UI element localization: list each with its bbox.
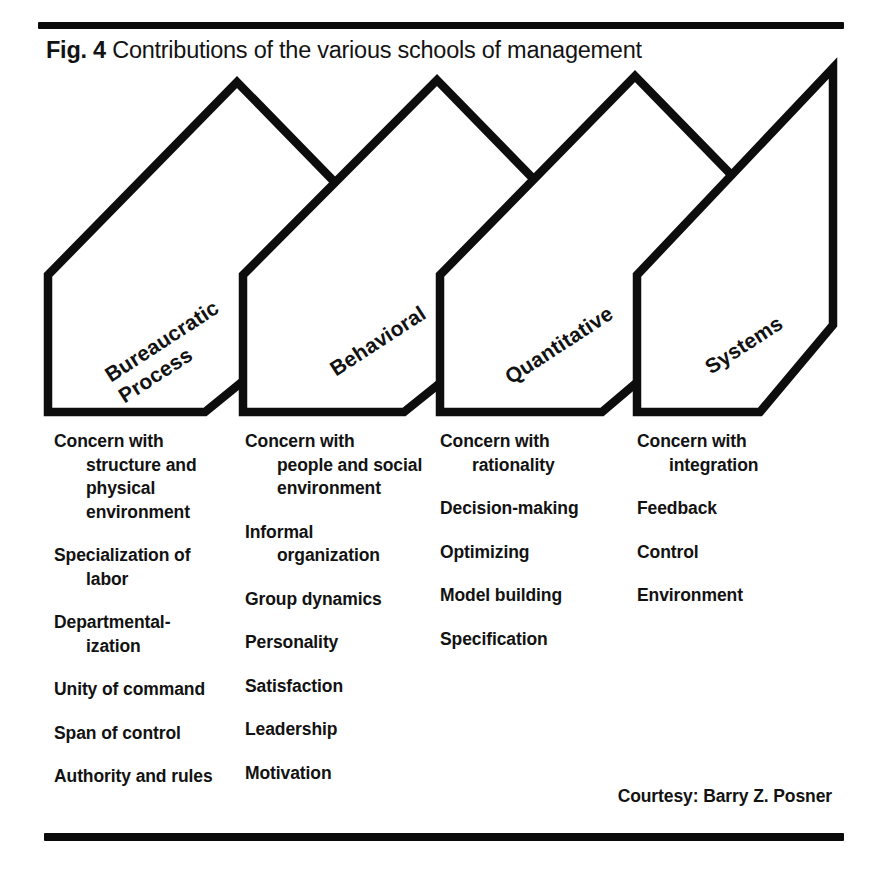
contribution-item: Optimizing bbox=[440, 541, 630, 565]
contribution-item: Motivation bbox=[245, 762, 430, 786]
contribution-item: Personality bbox=[245, 631, 430, 655]
contribution-cont: structure and physical environment bbox=[70, 454, 239, 525]
contribution-head: Satisfaction bbox=[245, 676, 343, 696]
contribution-item: Satisfaction bbox=[245, 675, 430, 699]
contribution-head: Personality bbox=[245, 632, 338, 652]
contribution-item: Model building bbox=[440, 584, 630, 608]
contribution-item: Concern withrationality bbox=[440, 430, 630, 477]
contribution-head: Leadership bbox=[245, 719, 337, 739]
contribution-item: Leadership bbox=[245, 718, 430, 742]
contribution-head: Unity of command bbox=[54, 679, 205, 699]
contribution-head: Environment bbox=[637, 585, 743, 605]
contribution-item: Group dynamics bbox=[245, 588, 430, 612]
contribution-item: Departmental-ization bbox=[54, 611, 239, 658]
contributions-columns: Concern withstructure and physical envir… bbox=[0, 430, 878, 820]
contribution-item: Concern withstructure and physical envir… bbox=[54, 430, 239, 524]
contribution-head: Motivation bbox=[245, 763, 332, 783]
contribution-item: Specialization oflabor bbox=[54, 544, 239, 591]
contribution-item: Feedback bbox=[637, 497, 832, 521]
contribution-head: Departmental- bbox=[54, 612, 170, 632]
contribution-item: Concern withintegration bbox=[637, 430, 832, 477]
contribution-item: Authority and rules bbox=[54, 765, 239, 789]
contribution-item: Control bbox=[637, 541, 832, 565]
contribution-head: Informal bbox=[245, 522, 313, 542]
contribution-item: Unity of command bbox=[54, 678, 239, 702]
bottom-rule-divider bbox=[44, 833, 844, 841]
contribution-head: Authority and rules bbox=[54, 766, 213, 786]
contribution-head: Concern with bbox=[440, 431, 550, 451]
chevron-shapes-svg bbox=[0, 0, 878, 440]
contribution-cont: integration bbox=[653, 454, 832, 478]
contribution-head: Feedback bbox=[637, 498, 717, 518]
contribution-cont: people and social environment bbox=[261, 454, 430, 501]
contribution-cont: rationality bbox=[456, 454, 630, 478]
contribution-item: Specification bbox=[440, 628, 630, 652]
contribution-cont: labor bbox=[70, 568, 239, 592]
contribution-item: Decision-making bbox=[440, 497, 630, 521]
contributions-column-behavioral: Concern withpeople and social environmen… bbox=[245, 430, 430, 805]
contribution-cont: organization bbox=[261, 544, 430, 568]
contribution-head: Model building bbox=[440, 585, 562, 605]
contribution-head: Concern with bbox=[245, 431, 355, 451]
courtesy-credit: Courtesy: Barry Z. Posner bbox=[618, 786, 832, 807]
contributions-column-bureaucratic-process: Concern withstructure and physical envir… bbox=[54, 430, 239, 809]
contribution-head: Concern with bbox=[637, 431, 747, 451]
contribution-head: Decision-making bbox=[440, 498, 579, 518]
contribution-head: Concern with bbox=[54, 431, 164, 451]
contribution-head: Specialization of bbox=[54, 545, 190, 565]
contribution-cont: ization bbox=[70, 635, 239, 659]
contributions-column-systems: Concern withintegration Feedback Control… bbox=[637, 430, 832, 628]
figure-container: Fig. 4 Contributions of the various scho… bbox=[0, 0, 878, 873]
contributions-column-quantitative: Concern withrationality Decision-making … bbox=[440, 430, 630, 671]
contribution-item: Informalorganization bbox=[245, 521, 430, 568]
contribution-item: Environment bbox=[637, 584, 832, 608]
contribution-head: Specification bbox=[440, 629, 548, 649]
contribution-item: Concern withpeople and social environmen… bbox=[245, 430, 430, 501]
contribution-head: Control bbox=[637, 542, 699, 562]
contribution-head: Optimizing bbox=[440, 542, 529, 562]
contribution-item: Span of control bbox=[54, 722, 239, 746]
contribution-head: Span of control bbox=[54, 723, 181, 743]
schools-chevron-band: Bureaucratic Process Behavioral Quantita… bbox=[0, 0, 878, 440]
contribution-head: Group dynamics bbox=[245, 589, 382, 609]
